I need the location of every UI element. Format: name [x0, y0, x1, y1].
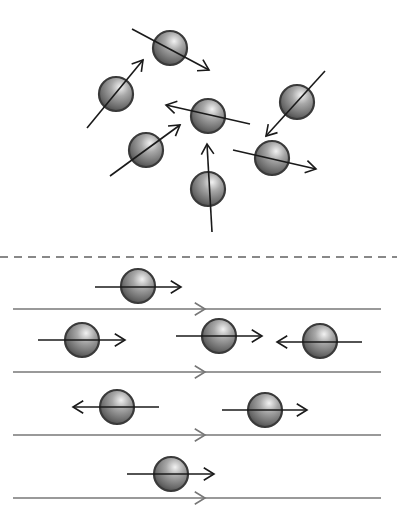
flow-line [13, 492, 381, 505]
particle [87, 60, 143, 128]
velocity-arrow [266, 71, 325, 136]
flow-line [13, 303, 381, 316]
particle [191, 144, 225, 232]
particle-ball-icon [191, 172, 225, 206]
particle [73, 390, 159, 424]
particle [266, 71, 325, 136]
particle-ball-icon [303, 324, 337, 358]
particle-ball-icon [121, 269, 155, 303]
particle-ball-icon [255, 141, 289, 175]
flow-line [13, 429, 381, 442]
particle [222, 393, 307, 427]
particle [127, 457, 214, 491]
velocity-arrow [87, 60, 143, 128]
particle-ball-icon [191, 99, 225, 133]
particle [277, 324, 362, 358]
particle [132, 29, 209, 71]
particle-flow-diagram [0, 0, 397, 511]
particle [95, 269, 181, 303]
particle [176, 319, 262, 353]
aligned-motion-section [38, 269, 362, 491]
flow-line [13, 366, 381, 379]
random-motion-section [87, 29, 325, 232]
particle [233, 141, 316, 175]
particle [38, 323, 125, 357]
particle [110, 125, 180, 176]
particle-ball-icon [153, 31, 187, 65]
